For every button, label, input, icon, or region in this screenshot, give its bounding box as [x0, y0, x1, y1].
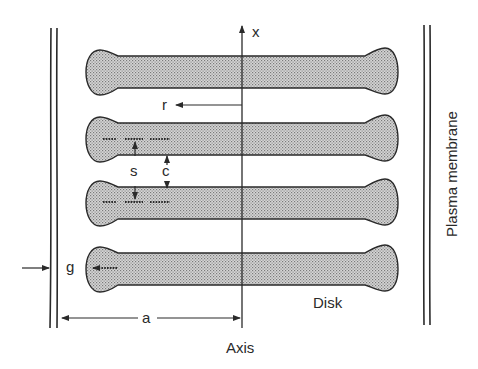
a-label: a	[142, 309, 151, 326]
c-label: c	[162, 162, 170, 179]
s-label: s	[130, 162, 138, 179]
right-plasma-membrane	[424, 25, 431, 325]
r-label: r	[162, 96, 167, 113]
plasma-membrane-label: Plasma membrane	[443, 111, 460, 237]
disk-label: Disk	[313, 294, 343, 311]
g-label: g	[66, 258, 74, 275]
axis-label: Axis	[226, 339, 254, 356]
rod-outer-segment-diagram: x r s c g a Axis Disk Plasma membrane	[0, 0, 478, 369]
left-plasma-membrane	[50, 28, 57, 328]
x-axis-label: x	[252, 23, 260, 40]
